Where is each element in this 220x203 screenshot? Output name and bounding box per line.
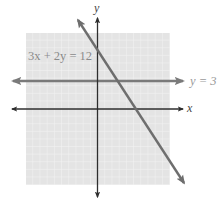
label-y-axis: y xyxy=(93,1,100,15)
label-x-axis: x xyxy=(186,101,193,115)
label-line-3x-2y-12: 3x + 2y = 12 xyxy=(28,49,92,63)
label-line-y-3: y = 3 xyxy=(188,74,216,88)
graph: 3x + 2y = 12 y = 3 x y xyxy=(0,0,220,203)
